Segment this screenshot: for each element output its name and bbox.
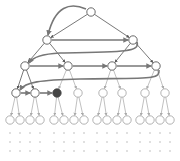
tree-edge [147, 70, 155, 89]
ellipsis-dot [39, 141, 41, 143]
ellipsis-dot [19, 132, 21, 134]
tree-edge [11, 97, 15, 115]
tree-node [64, 62, 72, 70]
ellipsis-dot [169, 141, 171, 143]
ellipsis-dot [116, 132, 118, 134]
ellipsis-dots [9, 132, 171, 152]
tree-diagram [0, 0, 180, 161]
tree-node [6, 116, 14, 124]
ellipsis-dot [106, 150, 108, 152]
tree-node [99, 89, 107, 97]
ellipsis-dot [29, 132, 31, 134]
ellipsis-dot [126, 141, 128, 143]
ellipsis-dot [139, 150, 141, 152]
tree-node [136, 116, 144, 124]
tree-edge [31, 97, 34, 115]
tree-node [87, 8, 95, 16]
tree-edge [136, 43, 153, 62]
ellipsis-dot [96, 132, 98, 134]
traversal-arrows [20, 6, 159, 93]
tree-edges [11, 14, 169, 115]
tree-node [60, 116, 68, 124]
ellipsis-dot [106, 141, 108, 143]
ellipsis-dot [96, 150, 98, 152]
tree-node [152, 62, 160, 70]
tree-node [103, 116, 111, 124]
ellipsis-dot [83, 132, 85, 134]
active-tree-node [53, 89, 61, 97]
tree-edge [51, 14, 87, 37]
tree-node [146, 116, 154, 124]
tree-edge [55, 97, 57, 115]
ellipsis-dot [63, 141, 65, 143]
tree-node [70, 116, 78, 124]
tree-edge [98, 97, 102, 115]
ellipsis-dot [19, 141, 21, 143]
ellipsis-dot [53, 141, 55, 143]
tree-node [26, 116, 34, 124]
traversal-arrow [20, 70, 159, 90]
tree-node [123, 116, 131, 124]
tree-node [31, 89, 39, 97]
tree-edge [58, 97, 63, 115]
tree-edge [118, 97, 121, 115]
ellipsis-dot [83, 150, 85, 152]
ellipsis-dot [139, 132, 141, 134]
tree-node [50, 116, 58, 124]
tree-node [141, 89, 149, 97]
ellipsis-dot [9, 132, 11, 134]
tree-node [12, 89, 20, 97]
ellipsis-dot [149, 150, 151, 152]
tree-edge [123, 97, 126, 115]
tree-node [118, 89, 126, 97]
ellipsis-dot [9, 150, 11, 152]
tree-edge [115, 43, 130, 62]
tree-edge [26, 70, 33, 89]
ellipsis-dot [73, 150, 75, 152]
tree-node [129, 36, 137, 44]
tree-edge [17, 70, 23, 89]
tree-edge [141, 97, 144, 115]
tree-node [108, 62, 116, 70]
tree-edge [79, 97, 83, 115]
ellipsis-dot [29, 150, 31, 152]
ellipsis-dot [159, 141, 161, 143]
tree-node [113, 116, 121, 124]
ellipsis-dot [19, 150, 21, 152]
ellipsis-dot [159, 150, 161, 152]
ellipsis-dot [9, 141, 11, 143]
tree-edge [166, 97, 169, 115]
traversal-arrow [29, 42, 137, 63]
tree-edge [146, 97, 149, 115]
ellipsis-dot [126, 132, 128, 134]
tree-node [43, 36, 51, 44]
tree-node [156, 116, 164, 124]
ellipsis-dot [29, 141, 31, 143]
tree-edge [104, 97, 107, 115]
ellipsis-dot [106, 132, 108, 134]
ellipsis-dot [63, 132, 65, 134]
ellipsis-dot [73, 132, 75, 134]
tree-edge [28, 43, 44, 62]
ellipsis-dot [169, 150, 171, 152]
ellipsis-dot [159, 132, 161, 134]
ellipsis-dot [73, 141, 75, 143]
tree-node [166, 116, 174, 124]
tree-node [80, 116, 88, 124]
ellipsis-dot [169, 132, 171, 134]
tree-edge [161, 97, 164, 115]
ellipsis-dot [149, 141, 151, 143]
tree-edge [75, 97, 78, 115]
tree-node [36, 116, 44, 124]
ellipsis-dot [149, 132, 151, 134]
tree-node [21, 62, 29, 70]
ellipsis-dot [116, 141, 118, 143]
tree-edge [36, 97, 39, 115]
ellipsis-dot [139, 141, 141, 143]
ellipsis-dot [63, 150, 65, 152]
ellipsis-dot [39, 150, 41, 152]
ellipsis-dot [53, 150, 55, 152]
tree-node [74, 89, 82, 97]
ellipsis-dot [83, 141, 85, 143]
ellipsis-dot [53, 132, 55, 134]
